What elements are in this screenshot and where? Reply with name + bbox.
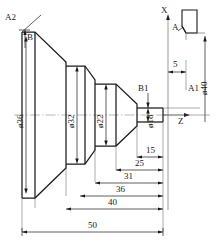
label-tool-a: A [172,23,179,32]
label-a1: A1 [188,84,199,93]
label-b: B [27,33,33,42]
label-diameter-22: ø22 [96,115,105,129]
cutting-tool-icon [178,10,197,33]
label-b1: B1 [138,84,149,93]
tool-reference-line [186,33,205,40]
label-a2: A2 [5,13,16,22]
label-axis-z: Z [178,117,184,126]
dimension-extension-lines [22,122,163,232]
label-length-25: 25 [135,159,144,168]
dimension-b1 [146,93,149,108]
technical-drawing-page: A2 B B1 A1 X Z A ø36 ø32 ø22 ø18 ø40 5 1… [0,0,218,249]
dimension-40 [66,207,163,210]
dimension-31 [95,181,163,184]
label-length-15: 15 [146,146,155,155]
dimension-d40 [163,36,210,122]
label-length-40: 40 [108,198,117,207]
label-length-31: 31 [124,172,133,181]
label-length-36: 36 [116,185,125,194]
label-length-50: 50 [88,221,97,230]
label-diameter-32: ø32 [67,115,76,129]
axis-x [166,14,170,210]
leader-line-a2 [22,15,41,32]
label-diameter-18: ø18 [146,115,155,129]
dimension-36 [80,194,163,197]
label-diameter-40: ø40 [200,82,209,96]
part-profile-upper [22,32,163,108]
label-diameter-36: ø36 [16,115,25,129]
label-axis-x: X [161,6,168,15]
label-length-5: 5 [173,60,178,69]
